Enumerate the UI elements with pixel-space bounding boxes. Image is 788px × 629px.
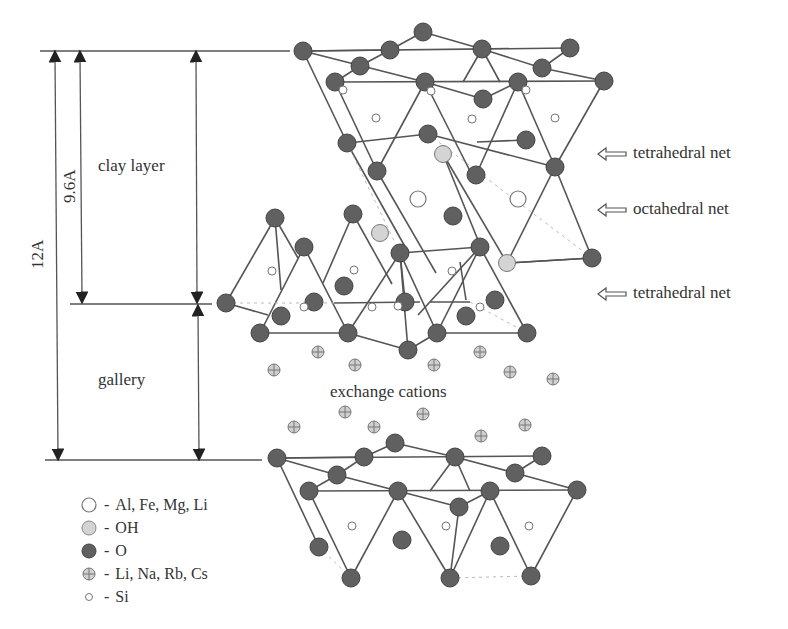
legend-text: O: [115, 539, 127, 562]
clay-layer-label: clay layer: [98, 156, 165, 176]
legend-text: Si: [115, 585, 128, 608]
small-circle-icon: [80, 592, 98, 602]
mid-layer-bonds: [226, 214, 592, 350]
legend-dash: -: [104, 539, 109, 562]
dark-gray-circle-icon: [80, 543, 98, 559]
light-gray-circle-icon: [80, 520, 98, 536]
tetrahedral-net-label-bottom: tetrahedral net: [633, 283, 731, 303]
tetrahedral-net-label-top: tetrahedral net: [633, 143, 731, 163]
dimension-9-6a-label: 9.6A: [60, 169, 80, 203]
open-circle-icon: [80, 497, 98, 513]
octahedral-net-label: octahedral net: [633, 199, 729, 219]
legend: - Al, Fe, Mg, Li - OH - O - Li, Na, Rb, …: [80, 493, 208, 608]
legend-item: - Li, Na, Rb, Cs: [80, 562, 208, 585]
net-arrows: [598, 148, 626, 300]
bottom-layer-bonds: [277, 443, 577, 578]
legend-text: OH: [115, 516, 138, 539]
dimension-12a-label: 12A: [28, 240, 48, 269]
legend-text: Li, Na, Rb, Cs: [115, 562, 207, 585]
legend-dash: -: [104, 562, 109, 585]
legend-item: - Si: [80, 585, 208, 608]
exchange-cations-label: exchange cations: [330, 382, 447, 402]
legend-item: - O: [80, 539, 208, 562]
legend-item: - OH: [80, 516, 208, 539]
crossed-circle-icon: [80, 567, 98, 581]
legend-dash: -: [104, 585, 109, 608]
legend-text: Al, Fe, Mg, Li: [115, 493, 207, 516]
top-layer-bonds: [303, 32, 604, 273]
gallery-label: gallery: [98, 370, 145, 390]
legend-dash: -: [104, 516, 109, 539]
legend-item: - Al, Fe, Mg, Li: [80, 493, 208, 516]
legend-dash: -: [104, 493, 109, 516]
